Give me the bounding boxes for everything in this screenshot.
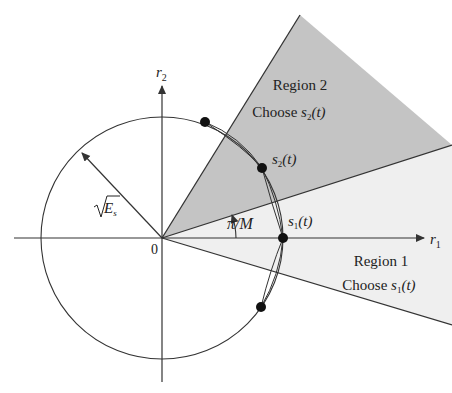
radius-arrow — [82, 153, 162, 238]
s1-point-label: s1(t) — [288, 213, 313, 231]
svg-text:Es: Es — [103, 200, 117, 218]
region-2-title: Region 2 — [273, 77, 328, 93]
signal-point-s2 — [257, 163, 267, 173]
origin-label: 0 — [151, 242, 158, 257]
region-1-choose: Choose s1(t) — [342, 277, 415, 295]
s2-point-label: s2(t) — [272, 151, 297, 169]
region-1-title: Region 1 — [354, 253, 409, 269]
signal-point-bottom — [256, 302, 266, 312]
psk-decision-diagram: r2 r1 0 Es π/M s1(t) s2(t) Region 2 Choo… — [0, 0, 452, 393]
r2-axis-label: r2 — [156, 64, 167, 83]
radius-label: Es — [94, 196, 120, 218]
angle-label: π/M — [227, 215, 254, 232]
region-2-choose: Choose s2(t) — [252, 104, 325, 122]
signal-point-s1 — [278, 233, 288, 243]
signal-point-top — [200, 117, 210, 127]
